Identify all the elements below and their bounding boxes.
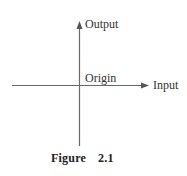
figure-caption: Figure2.1 bbox=[51, 152, 114, 164]
origin-label: Origin bbox=[85, 72, 116, 84]
output-arrowhead-icon bbox=[77, 21, 83, 29]
input-arrowhead-icon bbox=[141, 83, 149, 89]
figure-caption-word: Figure bbox=[51, 151, 86, 165]
figure-caption-number: 2.1 bbox=[98, 151, 114, 165]
input-axis-label: Input bbox=[153, 79, 178, 91]
output-axis-label: Output bbox=[85, 18, 118, 30]
